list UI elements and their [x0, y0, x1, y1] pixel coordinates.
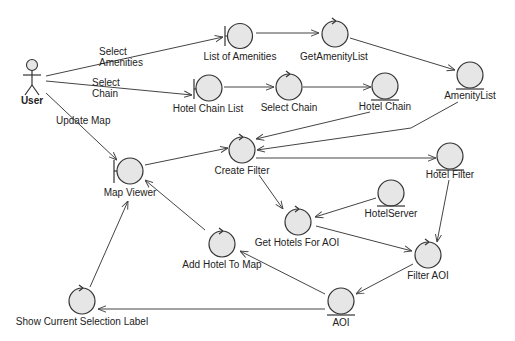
- node-label: Get Hotels For AOI: [255, 237, 339, 248]
- edge-labels: Select Amenities Select Chain Update Map: [56, 46, 143, 126]
- edge-hotel-chain-create-filter: [256, 112, 370, 139]
- node-label: Create Filter: [214, 165, 270, 176]
- node-label: List of Amenities: [204, 51, 277, 62]
- edge-hotel-filter-filter-aoi: [437, 180, 449, 242]
- actor-head-icon: [27, 60, 38, 71]
- node-filter-aoi[interactable]: Filter AOI: [407, 239, 449, 281]
- node-show-current-selection-label[interactable]: Show Current Selection Label: [16, 285, 148, 327]
- node-label: Hotel Filter: [426, 169, 475, 180]
- node-aoi[interactable]: AOI: [327, 288, 355, 328]
- label-select-chain-line2: Chain: [92, 88, 118, 99]
- edge-create-filter-get-hotels: [259, 175, 283, 209]
- node-select-chain[interactable]: Select Chain: [261, 71, 318, 113]
- edge-show-selection-map-viewer: [90, 201, 128, 287]
- node-label: AOI: [332, 317, 349, 328]
- edge-aoi-add-hotel-to-map: [240, 251, 325, 294]
- node-amenitylist[interactable]: AmenityList: [444, 62, 496, 101]
- node-label: HotelServer: [365, 208, 418, 219]
- robustness-diagram: Select Amenities Select Chain Update Map…: [0, 0, 515, 341]
- edge-user-map-viewer: [46, 93, 117, 160]
- label-select-amenities-line2: Amenities: [99, 57, 143, 68]
- node-hotel-chain[interactable]: Hotel Chain: [359, 73, 411, 112]
- node-label: AmenityList: [444, 90, 496, 101]
- actor-user[interactable]: User: [21, 60, 43, 107]
- node-get-hotels-for-aoi[interactable]: Get Hotels For AOI: [255, 206, 339, 248]
- node-hotel-filter[interactable]: Hotel Filter: [426, 143, 475, 180]
- node-label: Add Hotel To Map: [182, 259, 262, 270]
- node-label: Map Viewer: [104, 187, 157, 198]
- node-label: Select Chain: [261, 102, 318, 113]
- edge-filter-aoi-aoi: [356, 264, 413, 294]
- node-list-of-amenities[interactable]: List of Amenities: [204, 24, 277, 63]
- node-create-filter[interactable]: Create Filter: [214, 134, 270, 176]
- label-update-map: Update Map: [56, 115, 111, 126]
- label-select-amenities-line1: Select: [99, 46, 127, 57]
- node-label: GetAmenityList: [300, 51, 368, 62]
- node-label: Hotel Chain: [359, 101, 411, 112]
- actor-label: User: [21, 95, 43, 106]
- node-label: Show Current Selection Label: [16, 316, 148, 327]
- edge-map-viewer-create-filter: [145, 148, 228, 165]
- label-select-chain-line1: Select: [92, 77, 120, 88]
- node-label: Hotel Chain List: [173, 103, 244, 114]
- node-add-hotel-to-map[interactable]: Add Hotel To Map: [182, 228, 262, 270]
- node-label: Filter AOI: [407, 270, 449, 281]
